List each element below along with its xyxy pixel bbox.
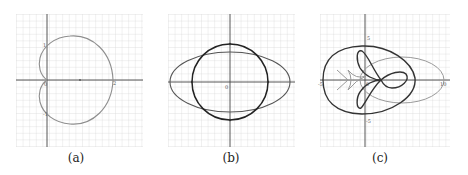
plot-b: 0 xyxy=(155,0,315,150)
panel-c: 5 -5 -5 10 0 (c) xyxy=(310,0,468,150)
grid xyxy=(168,14,295,147)
caption-c: (c) xyxy=(360,151,400,165)
label-x-left: -5 xyxy=(318,81,323,87)
label-y-bottom: -5 xyxy=(366,118,371,124)
label-origin: 0 xyxy=(366,81,369,87)
grid xyxy=(320,14,450,147)
caption-b: (b) xyxy=(211,151,251,165)
caption-a: (a) xyxy=(56,151,96,165)
label-x-right: 10 xyxy=(440,81,446,87)
panel-b: 0 (b) xyxy=(155,0,315,150)
panel-a: 0 2 1 -1 (a) xyxy=(0,0,160,150)
label-origin: 0 xyxy=(44,81,47,87)
label-y-pos: 1 xyxy=(43,42,46,48)
label-y-neg: -1 xyxy=(43,111,48,117)
plot-a: 0 2 1 -1 xyxy=(0,0,160,150)
label-origin: 0 xyxy=(225,84,228,90)
label-y-top: 5 xyxy=(367,35,370,41)
plot-c: 5 -5 -5 10 0 xyxy=(310,0,468,150)
label-two: 2 xyxy=(113,80,116,86)
